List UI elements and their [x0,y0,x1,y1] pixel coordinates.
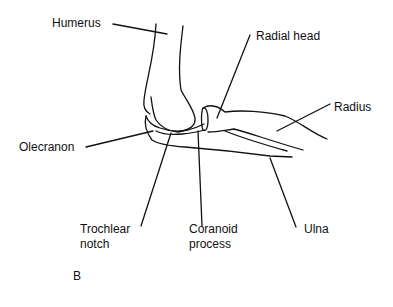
coranoid-process-label-line2: process [189,237,238,252]
humerus-outline [144,24,156,114]
panel-label: B [73,269,81,284]
radius-outline [203,106,327,139]
ulna-label: Ulna [304,222,329,237]
radius-label: Radius [334,100,371,115]
coranoid-process-leader [198,131,202,226]
radial-head-leader [217,35,250,118]
radial-head-outline [202,108,209,131]
trochlear-notch-leader [141,133,171,226]
olecranon-leader [86,131,153,147]
radial-head-label: Radial head [256,29,320,44]
humerus-leader [113,24,167,34]
olecranon-label: Olecranon [19,140,74,155]
trochlear-notch-label: Trochlear notch [80,222,130,252]
ulna-outline [145,116,292,157]
coranoid-process-label-line1: Coranoid [189,222,238,237]
elbow-anatomy-diagram: Humerus Radial head Radius Olecranon Tro… [0,0,393,307]
trochlear-notch-label-line2: notch [80,237,130,252]
radius-leader [277,104,330,131]
trochlear-notch-label-line1: Trochlear [80,222,130,237]
coranoid-process-label: Coranoid process [189,222,238,252]
ulna-leader [270,158,296,227]
humerus-label: Humerus [52,16,101,31]
